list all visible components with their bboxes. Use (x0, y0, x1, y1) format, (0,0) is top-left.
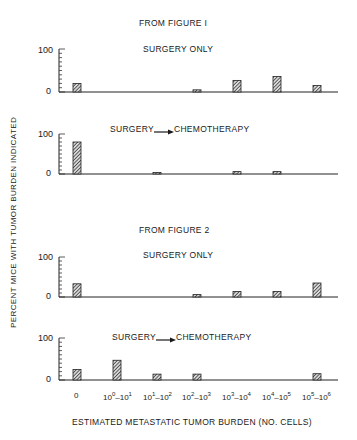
chart-panel-3 (59, 257, 338, 297)
bar (313, 283, 321, 297)
x-category-2: 101–102 (143, 391, 172, 402)
bar (233, 172, 241, 174)
x-category-5: 104–105 (262, 391, 291, 402)
x-category-0: 0 (74, 391, 78, 400)
x-category-6: 105–106 (302, 391, 331, 402)
bar (273, 77, 281, 92)
bar (153, 172, 161, 174)
x-category-3: 102–103 (182, 391, 211, 402)
bar (193, 374, 201, 380)
bar (313, 374, 321, 380)
x-axis-label: ESTIMATED METASTATIC TUMOR BURDEN (NO. C… (72, 417, 312, 427)
x-category-4: 103–104 (222, 391, 251, 402)
chart-panel-2 (59, 134, 338, 174)
bar (73, 284, 81, 297)
x-category-1: 100–101 (103, 391, 132, 402)
chart-panel-1 (59, 49, 338, 92)
bar (113, 360, 121, 380)
bar (73, 370, 81, 381)
bar (193, 90, 201, 92)
bar (73, 142, 81, 174)
chart-panel-4 (59, 338, 338, 380)
bar (233, 291, 241, 297)
bar (153, 374, 161, 380)
bar (193, 295, 201, 297)
bar (273, 291, 281, 297)
bar-charts (0, 0, 357, 440)
bar (313, 86, 321, 92)
bar (273, 172, 281, 174)
bar (73, 83, 81, 92)
bar (233, 80, 241, 92)
